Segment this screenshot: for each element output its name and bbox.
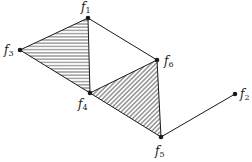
face-f1-f3-f4 (20, 18, 90, 93)
vertex-f1 (86, 16, 91, 21)
label-f5: f5 (154, 144, 165, 159)
vertex-f4 (88, 91, 93, 96)
label-f6: f6 (163, 54, 174, 69)
vertex-f3 (18, 48, 23, 53)
hatched-faces (20, 18, 161, 137)
vertex-f5 (159, 135, 164, 140)
edge-f1-f6 (88, 18, 157, 60)
simplicial-complex-diagram: f1f2f3f4f5f6 (0, 0, 252, 162)
label-f4: f4 (77, 97, 88, 112)
edge-f5-f2 (161, 94, 235, 137)
face-f4-f6-f5 (90, 60, 161, 137)
label-f3: f3 (3, 43, 14, 58)
vertex-f2 (233, 92, 238, 97)
label-f2: f2 (239, 87, 250, 102)
label-f1: f1 (80, 0, 91, 15)
vertex-f6 (155, 58, 160, 63)
